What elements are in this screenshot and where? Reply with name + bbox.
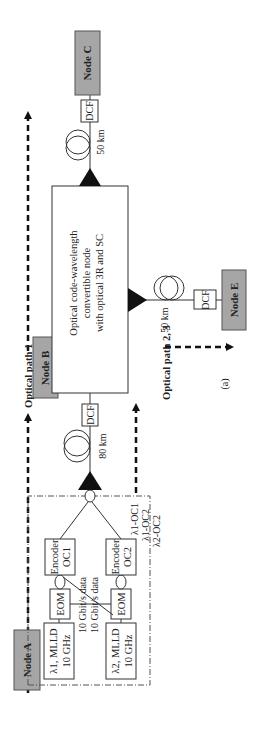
svg-text:DCF: DCF bbox=[85, 405, 96, 425]
node-c: Node C bbox=[75, 31, 100, 95]
svg-text:λ1, MLLD: λ1, MLLD bbox=[48, 628, 59, 674]
svg-text:10 GHz: 10 GHz bbox=[123, 634, 134, 667]
svg-text:EOM: EOM bbox=[55, 592, 66, 616]
encoder-oc1: Encoder OC1 bbox=[45, 539, 75, 575]
dcf-1: DCF bbox=[82, 404, 98, 426]
optical-network-diagram: Optical path 1 Node A λ1, MLLD 10 GHz λ2… bbox=[0, 0, 270, 733]
amplifier-3 bbox=[128, 288, 147, 312]
encoder-oc2: Encoder OC2 bbox=[106, 539, 136, 575]
data-label-1: 10 Gbit/s data bbox=[77, 576, 88, 633]
fiber-length-50km-c: 50 km bbox=[95, 129, 106, 155]
svg-text:OC2: OC2 bbox=[122, 547, 133, 567]
svg-text:DCF: DCF bbox=[84, 101, 95, 121]
svg-text:EOM: EOM bbox=[116, 592, 127, 616]
optical-path-23-label: Optical path 2, 3 bbox=[161, 325, 172, 400]
laser-1: λ1, MLLD 10 GHz bbox=[44, 623, 74, 679]
svg-text:Encoder: Encoder bbox=[49, 539, 60, 574]
legend-1: λ1-OC1 bbox=[129, 503, 140, 535]
data-label-2: 10 Gbit/s data bbox=[89, 576, 100, 633]
amplifier-2 bbox=[79, 168, 101, 186]
fiber-spool-50km-c bbox=[66, 130, 90, 160]
svg-text:convertible node: convertible node bbox=[81, 248, 92, 319]
laser-2: λ2, MLLD 10 GHz bbox=[106, 623, 136, 679]
legend-3: λ2-OC2 bbox=[151, 515, 162, 547]
amplifier-1 bbox=[78, 471, 102, 490]
node-e-label: Node E bbox=[228, 283, 240, 318]
svg-text:Optical code-wavelength: Optical code-wavelength bbox=[68, 230, 79, 336]
coupler-2 bbox=[116, 575, 126, 589]
svg-text:10 GHz: 10 GHz bbox=[61, 634, 72, 667]
node-a-label: Node A bbox=[21, 643, 33, 678]
svg-text:OC1: OC1 bbox=[61, 547, 72, 567]
svg-text:DCF: DCF bbox=[200, 290, 211, 310]
eom-1: EOM bbox=[50, 589, 70, 619]
svg-text:λ2, MLLD: λ2, MLLD bbox=[110, 628, 121, 674]
svg-text:Encoder: Encoder bbox=[110, 539, 121, 574]
node-b-label: Node B bbox=[39, 350, 51, 385]
svg-text:with optical 3R and SC: with optical 3R and SC bbox=[94, 234, 105, 332]
figure-caption: (a) bbox=[219, 378, 231, 389]
fiber-spool-50km-e bbox=[154, 276, 184, 300]
legend-2: λ1-OC2 bbox=[140, 509, 151, 541]
eom-2: EOM bbox=[111, 589, 131, 619]
combiner bbox=[85, 490, 95, 502]
node-c-label: Node C bbox=[81, 45, 93, 80]
dcf-2: DCF bbox=[81, 100, 98, 122]
fiber-spool-80km bbox=[64, 430, 90, 462]
dcf-3: DCF bbox=[194, 290, 216, 310]
node-e: Node E bbox=[222, 270, 246, 330]
converter-node: Optical code-wavelength convertible node… bbox=[52, 186, 128, 393]
optical-path-1-label: Optical path 1 bbox=[23, 344, 34, 408]
fiber-length-80km: 80 km bbox=[97, 433, 108, 459]
node-a: Node A bbox=[14, 630, 40, 690]
